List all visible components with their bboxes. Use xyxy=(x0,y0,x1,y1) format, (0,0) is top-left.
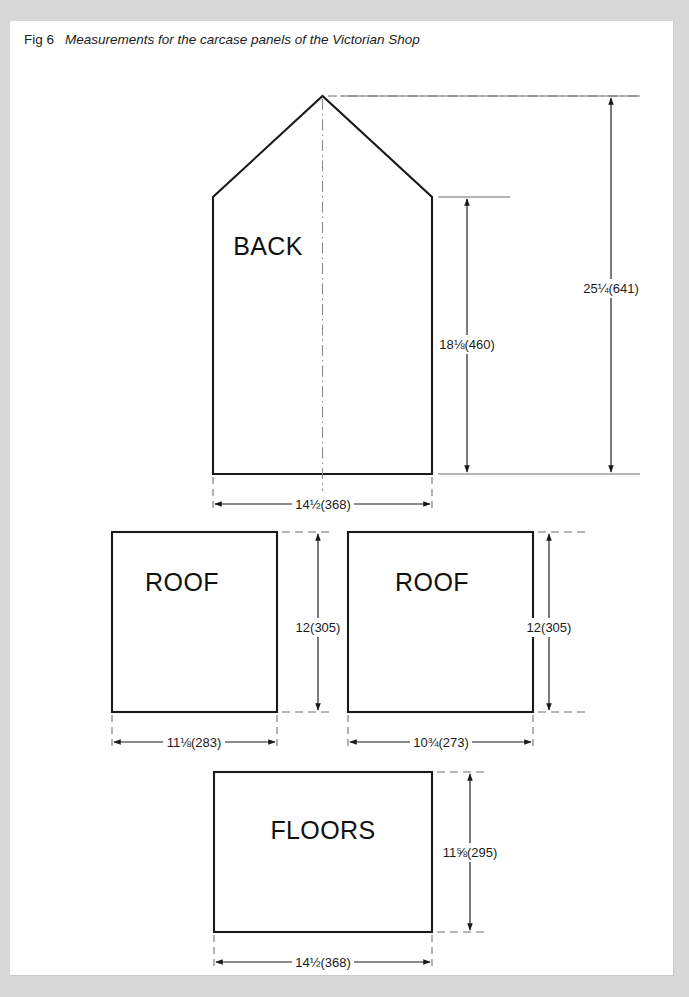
panel-roof-left: ROOF 12(305) 11⅛(283) xyxy=(112,532,344,752)
roof-right-outline xyxy=(348,532,533,712)
roof-right-height-label: 12(305) xyxy=(527,620,572,635)
dimension-floors-width: 14½(368) xyxy=(214,935,432,972)
dimension-roof-right-width: 10¾(273) xyxy=(348,715,533,752)
figure-sheet: Fig 6Measurements for the carcase panels… xyxy=(10,21,674,976)
back-overall-height-label: 25¼(641) xyxy=(583,281,639,296)
roof-left-height-label: 12(305) xyxy=(296,620,341,635)
back-wall-height-label: 18⅛(460) xyxy=(439,337,495,352)
panel-label-back: BACK xyxy=(233,232,303,260)
panel-roof-right: ROOF 12(305) 10¾(273) xyxy=(348,532,588,752)
back-width-label: 14½(368) xyxy=(295,497,351,512)
panel-label-floors: FLOORS xyxy=(270,816,375,844)
floors-width-label: 14½(368) xyxy=(295,955,351,970)
roof-right-width-label: 10¾(273) xyxy=(413,735,469,750)
panel-floors: FLOORS 11⅝(295) 14½(368) xyxy=(214,772,502,972)
dimension-back-overall-height: 25¼(641) xyxy=(581,98,643,472)
technical-drawing: BACK 25¼(641) 18⅛(460) 14½(368) xyxy=(10,21,674,976)
floors-height-label: 11⅝(295) xyxy=(443,845,498,860)
floors-outline xyxy=(214,772,432,932)
roof-left-width-label: 11⅛(283) xyxy=(167,735,222,750)
panel-back: BACK 25¼(641) 18⅛(460) 14½(368) xyxy=(213,96,643,514)
dimension-back-width: 14½(368) xyxy=(213,477,432,514)
panel-label-roof-left: ROOF xyxy=(145,568,219,596)
dimension-floors-height: 11⅝(295) xyxy=(440,774,502,930)
panel-label-roof-right: ROOF xyxy=(395,568,469,596)
dimension-roof-left-height: 12(305) xyxy=(292,534,344,710)
dimension-back-wall-height: 18⅛(460) xyxy=(437,199,499,472)
roof-left-outline xyxy=(112,532,277,712)
dimension-roof-left-width: 11⅛(283) xyxy=(112,715,277,752)
